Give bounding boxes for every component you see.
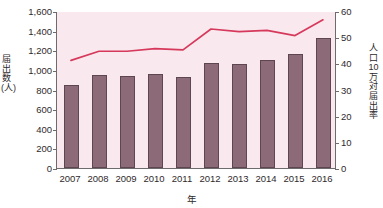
- y-axis-right-tickmark: [335, 64, 339, 65]
- y-axis-left-ticks: 1,600 1,400 1,200 1,000 800 600 400 200 …: [8, 0, 52, 208]
- y-axis-left-tick-label: 0: [47, 164, 52, 174]
- x-axis-tick-label: 2014: [252, 174, 280, 184]
- y-axis-left-tick-label: 800: [36, 86, 52, 96]
- y-axis-right-tickmark: [335, 91, 339, 92]
- y-axis-right-tickmark: [335, 117, 339, 118]
- y-axis-left-tickmark: [53, 91, 57, 92]
- y-axis-left-tickmark: [53, 71, 57, 72]
- y-axis-left-tickmark: [53, 51, 57, 52]
- plot-area: [56, 12, 336, 169]
- y-axis-right-title: 人口10万対届出率: [368, 44, 379, 121]
- y-axis-left-tickmark: [53, 12, 57, 13]
- y-axis-right-tick-label: 40: [341, 59, 352, 69]
- y-axis-left-tickmark: [53, 32, 57, 33]
- x-axis-title: 年: [0, 192, 383, 206]
- x-axis-tick-label: 2012: [196, 174, 224, 184]
- y-axis-left-tick-label: 1,000: [28, 66, 52, 76]
- y-axis-left-tick-label: 200: [36, 144, 52, 154]
- y-axis-right-tick-label: 20: [341, 112, 352, 122]
- y-axis-right-tick-label: 50: [341, 33, 352, 43]
- y-axis-right-tickmark: [335, 169, 339, 170]
- y-axis-left-tickmark: [53, 130, 57, 131]
- y-axis-right-tick-label: 30: [341, 86, 352, 96]
- y-axis-left-tick-label: 400: [36, 125, 52, 135]
- y-axis-left-tick-label: 1,400: [28, 27, 52, 37]
- line-series: [57, 12, 337, 169]
- y-axis-right-tickmark: [335, 143, 339, 144]
- y-axis-right-tick-label: 10: [341, 138, 352, 148]
- rate-line-path: [71, 20, 323, 61]
- y-axis-left-tick-label: 600: [36, 105, 52, 115]
- y-axis-left-tickmark: [53, 110, 57, 111]
- x-axis-tick-label: 2007: [56, 174, 84, 184]
- y-axis-right-tick-label: 60: [341, 7, 352, 17]
- x-axis-tick-label: 2015: [280, 174, 308, 184]
- y-axis-left-tick-label: 1,200: [28, 46, 52, 56]
- y-axis-left-tickmark: [53, 149, 57, 150]
- x-axis-tick-label: 2013: [224, 174, 252, 184]
- y-axis-left-tickmark: [53, 169, 57, 170]
- x-axis-tick-label: 2016: [308, 174, 336, 184]
- x-axis-tick-label: 2010: [140, 174, 168, 184]
- y-axis-right-tickmark: [335, 12, 339, 13]
- x-axis-tick-label: 2009: [112, 174, 140, 184]
- y-axis-left-tick-label: 1,600: [28, 7, 52, 17]
- y-axis-right-tick-label: 0: [341, 164, 346, 174]
- y-axis-right-ticks: 60 50 40 30 20 10 0: [341, 0, 363, 208]
- x-axis-tick-label: 2011: [168, 174, 196, 184]
- chart-figure: 届出数(人) 人口10万対届出率 1,600 1,400 1,200 1,000…: [0, 0, 383, 208]
- x-axis-tick-label: 2008: [84, 174, 112, 184]
- y-axis-right-tickmark: [335, 38, 339, 39]
